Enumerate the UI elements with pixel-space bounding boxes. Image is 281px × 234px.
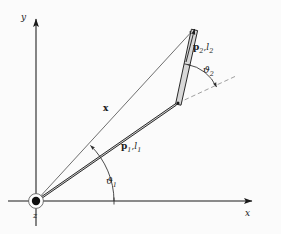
link2-length-sub: 2 bbox=[209, 47, 213, 55]
joint-angle-1-arc bbox=[91, 146, 115, 202]
joint-angle-2-label: ϑ2 bbox=[203, 65, 214, 77]
joint-angle-1-label: ϑ1 bbox=[106, 176, 117, 188]
x-axis-label: x bbox=[245, 209, 250, 218]
origin-z-label: z bbox=[33, 212, 37, 220]
task-vector-label: x bbox=[103, 104, 108, 113]
task-vector-line bbox=[37, 30, 194, 201]
y-axis-label: y bbox=[21, 13, 26, 22]
joint-angle-1-symbol: ϑ bbox=[106, 175, 113, 186]
link2-label: p2,l2 bbox=[193, 43, 213, 54]
joint-angle-2-sub: 2 bbox=[210, 70, 214, 78]
link1-length-sub: 1 bbox=[137, 146, 141, 154]
joint-angle-2-symbol: ϑ bbox=[203, 64, 210, 75]
link1-label: p1,l1 bbox=[121, 142, 141, 153]
link2-body bbox=[176, 29, 198, 105]
kinematics-figure: y x z x p1,l1 p2,l2 ϑ1 ϑ2 bbox=[0, 0, 281, 234]
figure-canvas bbox=[0, 0, 281, 234]
elbow-joint-marker bbox=[177, 102, 180, 105]
joint-angle-1-sub: 1 bbox=[113, 181, 117, 189]
origin-joint-symbol bbox=[29, 194, 44, 209]
